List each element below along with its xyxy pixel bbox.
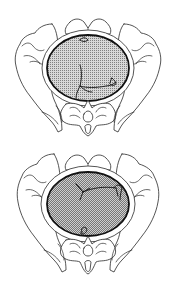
pelvis-drawing-bottom — [0, 140, 176, 281]
coccyx — [85, 261, 91, 272]
lumbar-vertebra — [83, 245, 93, 256]
pelvis-drawing-top — [0, 0, 176, 140]
pelvis-figure-top — [0, 0, 176, 140]
lumbar-vertebra — [83, 111, 93, 122]
pelvis-figure-bottom — [0, 140, 176, 281]
coccyx — [85, 125, 91, 134]
fetal-head-bottom — [47, 172, 129, 236]
